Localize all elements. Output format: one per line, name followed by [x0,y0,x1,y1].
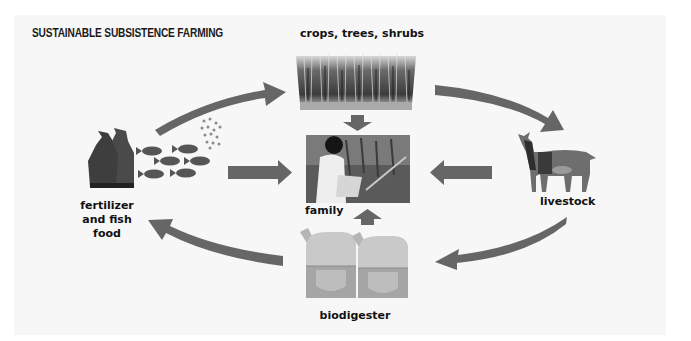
arrow-crops-to-livestock [435,85,564,132]
arrow-biodigester-to-family [353,209,382,225]
fish-food-pellets-icon [201,118,222,150]
goat-image [516,130,602,194]
fertilizer-bags-and-fish-image [86,115,226,193]
livestock-label: livestock [540,195,595,209]
arrow-livestock-to-biodigester [435,217,567,270]
fertilizer-label-line-3: food [67,227,147,241]
fertilizer-label-line-1: fertilizer [67,199,147,213]
arrow-livestock-to-family [430,160,492,185]
biodigester-label: biodigester [305,309,405,323]
biodigester-tanks-image [298,226,412,304]
arrow-crops-to-family [343,115,372,131]
family-label: family [305,204,343,218]
family-photo-image [306,135,410,203]
arrow-biodigester-to-fertilizer [148,219,283,266]
crops-label: crops, trees, shrubs [300,27,420,41]
arrow-fertilizer-to-family [228,160,292,185]
crop-field-image [296,50,416,112]
fertilizer-label-line-2: and fish [67,213,147,227]
